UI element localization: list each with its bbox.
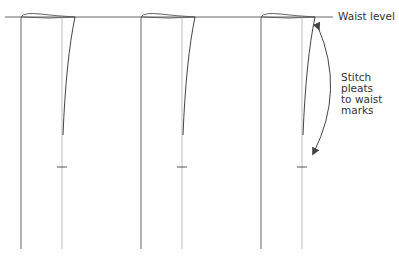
pleat-strip-3: [261, 13, 315, 249]
pleat-fold-curve: [183, 17, 195, 135]
pleat-diagram: Waist level Stitch pleats to waist marks: [0, 0, 399, 263]
pleat-fold-curve: [303, 17, 315, 135]
pleat-strip-2: [141, 13, 195, 249]
stitch-note-label: Stitch pleats to waist marks: [341, 72, 382, 116]
double-arrow-icon: [314, 27, 331, 152]
waist-level-label: Waist level: [338, 11, 395, 22]
pleat-strip-1: [21, 13, 75, 249]
pleat-diagram-drawing: [0, 0, 399, 263]
pleat-fold-curve: [63, 17, 75, 135]
